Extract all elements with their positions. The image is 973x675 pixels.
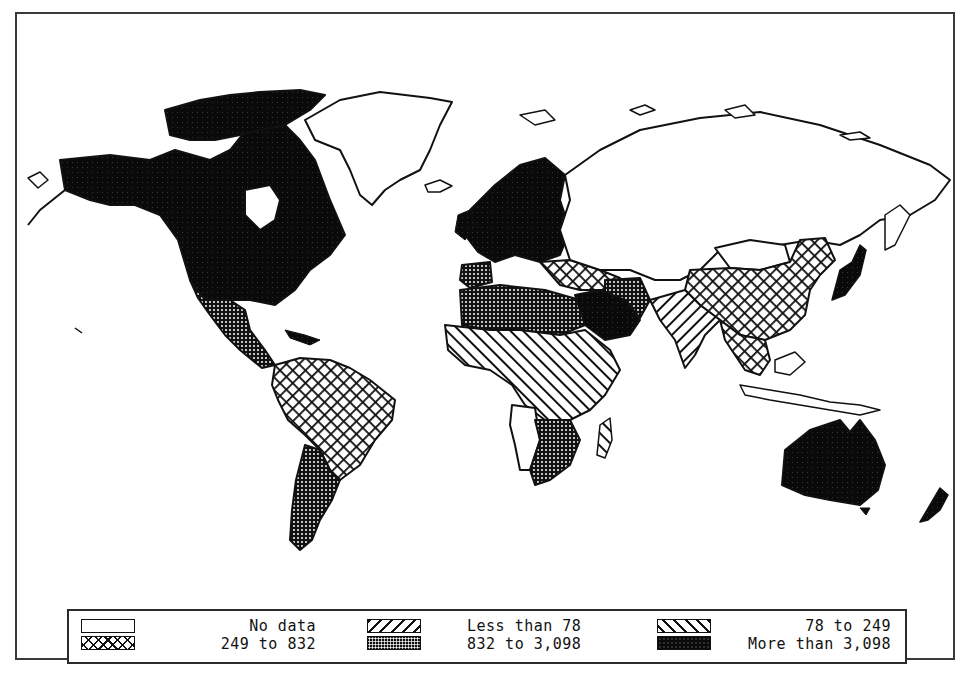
legend-item-no-data: No data [81, 617, 316, 635]
legend-label: 249 to 832 [221, 635, 316, 653]
forward-hatch-swatch-icon [367, 619, 421, 633]
legend-column-2: Less than 78 832 to 3,098 [367, 617, 600, 657]
legend-item-832-to-3098: 832 to 3,098 [367, 635, 600, 653]
legend-item-less-than-78: Less than 78 [367, 617, 600, 635]
backward-hatch-swatch-icon [657, 619, 711, 633]
region-north-africa [460, 285, 585, 335]
cross-hatch-swatch-icon [81, 636, 135, 650]
legend-label: Less than 78 [467, 617, 581, 635]
legend-label: 832 to 3,098 [467, 635, 581, 653]
legend-column-3: 78 to 249 More than 3,098 [657, 617, 891, 657]
region-south-america-north [272, 358, 395, 480]
legend-column-1: No data 249 to 832 [81, 617, 316, 657]
legend-item-78-to-249: 78 to 249 [657, 617, 891, 635]
region-southern-africa [530, 420, 580, 485]
region-japan [832, 245, 866, 300]
region-australia [782, 420, 885, 505]
dots-swatch-icon [367, 636, 421, 650]
region-arctic-islands [165, 90, 325, 140]
legend-item-249-to-832: 249 to 832 [81, 635, 316, 653]
region-iberia [460, 262, 492, 288]
solid-swatch-icon [657, 636, 711, 650]
legend-item-more-than-3098: More than 3,098 [657, 635, 891, 653]
region-europe [465, 158, 570, 262]
legend-label: No data [249, 617, 316, 635]
legend-label: More than 3,098 [748, 635, 891, 653]
region-sub-saharan-africa [445, 325, 620, 420]
map-legend: No data 249 to 832 Less than 78 832 to 3… [67, 609, 907, 664]
region-madagascar [597, 418, 612, 458]
empty-swatch-icon [81, 619, 135, 633]
legend-label: 78 to 249 [805, 617, 891, 635]
world-map [0, 0, 973, 600]
region-north-america [60, 120, 345, 305]
region-new-zealand [920, 488, 948, 522]
